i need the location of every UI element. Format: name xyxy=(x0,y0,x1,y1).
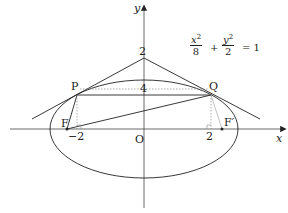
diagram-canvas xyxy=(0,0,288,213)
fraction-x2-over-8: x2 8 xyxy=(190,33,202,57)
chord-length-label: 4 xyxy=(140,83,147,94)
plus-sign: + xyxy=(210,43,218,53)
focus-f-prime-label: F′ xyxy=(224,117,234,128)
x-tick-neg2: −2 xyxy=(68,131,84,142)
tangent-line-left xyxy=(32,58,144,119)
y-axis-label: y xyxy=(134,3,140,14)
ellipse-equation: x2 8 + y2 2 = 1 xyxy=(190,33,286,65)
y-intercept-label: 2 xyxy=(139,46,146,57)
origin-label: O xyxy=(135,134,144,145)
right-angle-mark-right xyxy=(207,125,211,129)
x-axis-label: x xyxy=(276,133,282,144)
equals-one: = 1 xyxy=(242,43,260,53)
ellipse-diagram: y x O 2 4 −2 2 P Q F F′ x2 8 + y2 2 = 1 xyxy=(0,0,288,213)
point-q-label: Q xyxy=(209,81,218,92)
fraction-y2-over-2: y2 2 xyxy=(222,33,234,57)
tangent-line-right xyxy=(144,58,260,119)
x-tick-2: 2 xyxy=(206,131,213,142)
segment-fq xyxy=(67,95,211,129)
focus-f-label: F xyxy=(61,118,69,129)
point-p-label: P xyxy=(71,81,78,92)
